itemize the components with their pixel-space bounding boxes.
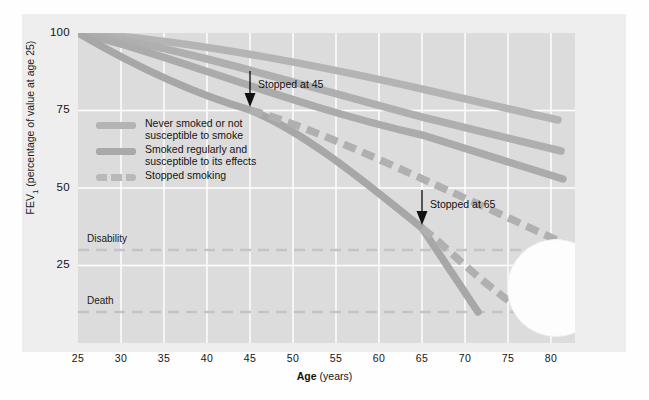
arrow-stopped-at-65 <box>417 190 428 225</box>
annotation-stopped-at-65: Stopped at 65 <box>430 198 495 210</box>
legend-label-smoked-susceptible: Smoked regularly and susceptible to its … <box>145 144 256 167</box>
x-tick-70: 70 <box>445 352 485 364</box>
y-axis-title-prefix: FEV <box>24 194 36 214</box>
fletcher-peto-chart: FEV1 (percentage of value at age 25) 100… <box>0 0 649 400</box>
legend-label-never-smoked-line1: Never smoked or not <box>145 118 243 130</box>
x-axis-title-bold: Age <box>297 370 317 382</box>
y-axis-title: FEV1 (percentage of value at age 25) <box>24 0 39 278</box>
chart-legend: Never smoked or not susceptible to smoke… <box>96 118 256 185</box>
x-axis-title-unit: (years) <box>320 370 353 382</box>
x-tick-75: 75 <box>488 352 528 364</box>
legend-item-never-smoked: Never smoked or not susceptible to smoke <box>96 118 256 141</box>
x-tick-50: 50 <box>273 352 313 364</box>
chart-svg <box>78 33 575 343</box>
x-tick-40: 40 <box>187 352 227 364</box>
x-tick-60: 60 <box>359 352 399 364</box>
x-tick-35: 35 <box>144 352 184 364</box>
annotation-stopped-at-45: Stopped at 45 <box>258 78 323 90</box>
x-tick-30: 30 <box>101 352 141 364</box>
legend-label-smoked-susceptible-line2: susceptible to its effects <box>145 156 256 168</box>
legend-item-smoked-susceptible: Smoked regularly and susceptible to its … <box>96 144 256 167</box>
legend-label-stopped-smoking-line1: Stopped smoking <box>145 170 226 182</box>
legend-item-stopped-smoking: Stopped smoking <box>96 170 256 182</box>
legend-label-never-smoked: Never smoked or not susceptible to smoke <box>145 118 243 141</box>
y-tick-75: 75 <box>30 103 70 115</box>
x-tick-55: 55 <box>316 352 356 364</box>
disability-label: Disability <box>87 233 127 244</box>
legend-label-never-smoked-line2: susceptible to smoke <box>145 130 243 142</box>
plot-area: Disability Death Stopped at 45 Stopped a… <box>78 33 575 343</box>
x-axis-title: Age (years) <box>0 370 649 382</box>
y-tick-50: 50 <box>30 181 70 193</box>
legend-label-stopped-smoking: Stopped smoking <box>145 170 226 182</box>
y-tick-25: 25 <box>30 258 70 270</box>
x-tick-25: 25 <box>58 352 98 364</box>
x-tick-80: 80 <box>531 352 571 364</box>
legend-swatch-stopped-smoking <box>96 174 136 181</box>
legend-label-smoked-susceptible-line1: Smoked regularly and <box>145 144 256 156</box>
x-tick-45: 45 <box>230 352 270 364</box>
legend-swatch-never-smoked <box>96 122 136 129</box>
y-axis-title-rest: (percentage of value at age 25) <box>24 41 36 190</box>
x-tick-65: 65 <box>402 352 442 364</box>
y-tick-100: 100 <box>30 26 70 38</box>
death-label: Death <box>87 295 114 306</box>
legend-swatch-smoked-susceptible <box>96 148 136 155</box>
